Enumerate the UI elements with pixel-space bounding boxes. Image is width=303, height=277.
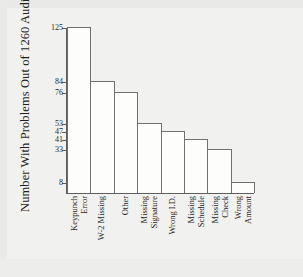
x-category: KeypunchError	[67, 196, 91, 270]
x-category: Other	[114, 196, 138, 270]
bar-series	[67, 28, 254, 193]
page-edge-top	[0, 0, 303, 8]
bar	[161, 131, 185, 193]
pareto-chart-figure: Number With Problems Out of 1260 Audits …	[0, 0, 303, 277]
x-category-label-line1: Wrong I.D.	[167, 196, 177, 235]
x-category-label-line1: Other	[120, 196, 130, 215]
page-edge-left	[0, 0, 7, 277]
x-category: MissingCheck	[208, 196, 232, 270]
y-tick-label: 8	[59, 179, 63, 187]
x-category-label-line1: Wrong	[233, 196, 243, 219]
y-tick-label: 41	[55, 136, 63, 144]
x-category-label-line2: Error	[79, 196, 89, 231]
x-axis-line	[66, 193, 254, 194]
x-category-label: MissingSchedule	[187, 196, 206, 227]
y-tick-label: 76	[55, 89, 63, 97]
y-tick-label: 125	[51, 24, 63, 32]
x-category: WrongAmount	[232, 196, 256, 270]
x-category-label: Wrong I.D.	[168, 196, 178, 235]
bar	[90, 81, 114, 193]
y-axis-title: Number With Problems Out of 1260 Audits	[14, 2, 36, 212]
x-category-label-line1: W-2 Missing	[97, 196, 107, 240]
x-category-label-line1: Missing	[139, 196, 149, 223]
x-category-label: MissingCheck	[210, 196, 229, 223]
x-category-label: MissingSignature	[140, 196, 159, 229]
bar	[207, 149, 231, 193]
x-category-label: WrongAmount	[234, 196, 253, 224]
plot-area: 1258476534741338	[66, 28, 254, 194]
bar	[184, 139, 208, 193]
y-tick-label: 33	[55, 146, 63, 154]
x-category: Wrong I.D.	[161, 196, 185, 270]
x-category-label: W-2 Missing	[98, 196, 108, 240]
x-category-label-line2: Check	[220, 196, 230, 223]
x-category-label-line2: Signature	[149, 196, 159, 229]
bar	[137, 123, 161, 193]
x-category-label-line2: Schedule	[196, 196, 206, 227]
bar	[67, 27, 91, 193]
x-category-label: KeypunchError	[69, 196, 88, 231]
x-category: MissingSignature	[138, 196, 162, 270]
bar	[231, 182, 255, 193]
x-category-label-line1: Missing	[186, 196, 196, 223]
x-category-label-line1: Keypunch	[68, 196, 78, 231]
x-category: W-2 Missing	[91, 196, 115, 270]
x-category: MissingSchedule	[185, 196, 209, 270]
x-axis-category-labels: KeypunchErrorW-2 MissingOtherMissingSign…	[67, 196, 255, 270]
y-tick-label: 84	[55, 78, 63, 86]
x-category-label-line1: Missing	[209, 196, 219, 223]
x-category-label: Other	[121, 196, 131, 215]
x-category-label-line2: Amount	[243, 196, 253, 224]
bar	[114, 92, 138, 193]
